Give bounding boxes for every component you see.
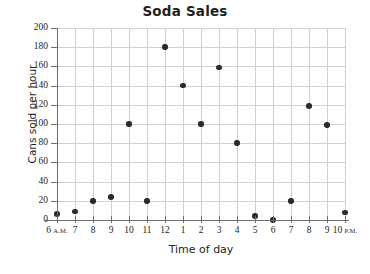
data-point bbox=[144, 198, 150, 204]
gridline-horizontal bbox=[57, 47, 345, 48]
x-tick-mark bbox=[75, 216, 76, 223]
x-tick-label: 9 bbox=[109, 226, 114, 236]
plot-area bbox=[57, 28, 345, 220]
y-tick-mark bbox=[51, 162, 58, 163]
y-tick-mark bbox=[51, 66, 58, 67]
data-point bbox=[288, 198, 294, 204]
x-tick-mark bbox=[111, 216, 112, 223]
x-axis-line bbox=[45, 220, 349, 221]
y-tick-mark bbox=[51, 124, 58, 125]
gridline-vertical bbox=[345, 28, 346, 220]
data-point bbox=[234, 140, 240, 146]
gridline-horizontal bbox=[57, 66, 345, 67]
y-axis-title: Cans sold per hour bbox=[26, 19, 38, 209]
x-tick-mark bbox=[273, 216, 274, 223]
gridline-horizontal bbox=[57, 86, 345, 87]
x-tick-label: 5 bbox=[253, 226, 258, 236]
x-tick-label: 10 bbox=[124, 226, 134, 236]
x-tick-mark bbox=[219, 216, 220, 223]
x-tick-label: 3 bbox=[217, 226, 222, 236]
gridline-horizontal bbox=[57, 28, 345, 29]
x-tick-label: 6 bbox=[271, 226, 276, 236]
x-tick-mark bbox=[237, 216, 238, 223]
data-point bbox=[126, 121, 132, 127]
y-tick-mark bbox=[51, 182, 58, 183]
gridline-horizontal bbox=[57, 143, 345, 144]
x-tick-mark bbox=[345, 216, 346, 223]
x-tick-label: 9 bbox=[325, 226, 330, 236]
x-tick-mark bbox=[165, 216, 166, 223]
y-tick-mark bbox=[51, 28, 58, 29]
gridline-horizontal bbox=[57, 182, 345, 183]
x-tick-label: 4 bbox=[235, 226, 240, 236]
y-tick-label: 0 bbox=[8, 215, 48, 225]
x-tick-mark bbox=[147, 216, 148, 223]
x-tick-label: 12 bbox=[160, 226, 170, 236]
x-tick-label: 8 bbox=[307, 226, 312, 236]
data-point bbox=[324, 122, 330, 128]
y-tick-mark bbox=[51, 86, 58, 87]
x-tick-label: 2 bbox=[199, 226, 204, 236]
x-tick-mark bbox=[309, 216, 310, 223]
data-point bbox=[216, 65, 222, 71]
x-tick-label: 11 bbox=[142, 226, 151, 236]
gridline-horizontal bbox=[57, 162, 345, 163]
y-tick-mark bbox=[51, 201, 58, 202]
data-point bbox=[306, 103, 312, 109]
x-tick-label: 7 bbox=[289, 226, 294, 236]
x-tick-label: 7 bbox=[73, 226, 78, 236]
y-tick-mark bbox=[51, 105, 58, 106]
x-tick-label: 8 bbox=[91, 226, 96, 236]
data-point bbox=[90, 198, 96, 204]
gridline-horizontal bbox=[57, 201, 345, 202]
data-point bbox=[198, 121, 204, 127]
x-tick-mark bbox=[201, 216, 202, 223]
y-tick-mark bbox=[51, 47, 58, 48]
gridline-horizontal bbox=[57, 105, 345, 106]
soda-sales-chart: Soda Sales 200180160140120100806040200 6… bbox=[0, 0, 370, 274]
data-point bbox=[162, 44, 168, 50]
x-axis-title: Time of day bbox=[57, 243, 345, 256]
data-point bbox=[72, 209, 78, 215]
y-tick-mark bbox=[51, 143, 58, 144]
data-point bbox=[108, 194, 114, 200]
x-tick-mark bbox=[57, 216, 58, 223]
x-tick-label: 10 P.M. bbox=[333, 226, 358, 236]
data-point bbox=[180, 83, 186, 89]
x-tick-mark bbox=[327, 216, 328, 223]
x-tick-mark bbox=[129, 216, 130, 223]
chart-title: Soda Sales bbox=[0, 3, 370, 19]
x-tick-mark bbox=[183, 216, 184, 223]
x-tick-mark bbox=[291, 216, 292, 223]
x-tick-mark bbox=[93, 216, 94, 223]
x-tick-mark bbox=[255, 216, 256, 223]
x-tick-label: 1 bbox=[181, 226, 186, 236]
data-point bbox=[342, 210, 348, 216]
x-tick-label: 6 A.M. bbox=[46, 226, 68, 236]
